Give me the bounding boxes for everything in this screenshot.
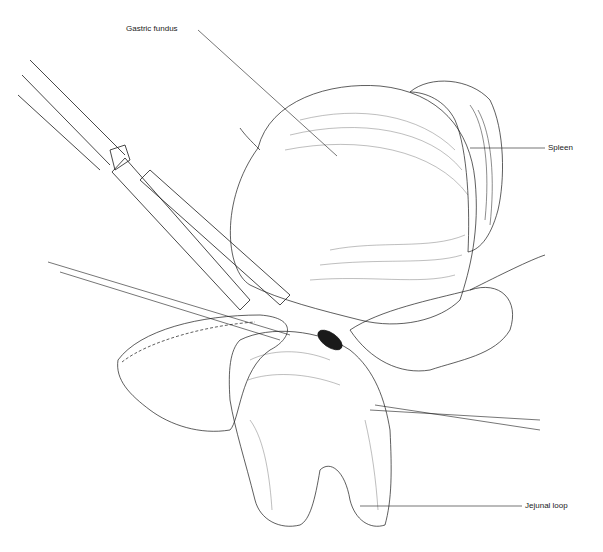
stapler-instrument — [18, 60, 290, 310]
bowel-segment-left — [118, 315, 288, 431]
suture-right — [370, 410, 540, 420]
gastric-fundus-outline — [230, 85, 476, 323]
suture-left-2 — [60, 272, 280, 340]
illustration-canvas: Gastric fundus Spleen Jejunal loop — [0, 0, 603, 552]
suture-left — [48, 262, 290, 335]
illustration-art — [0, 0, 603, 552]
suture-right-2 — [375, 405, 540, 430]
label-spleen: Spleen — [548, 143, 573, 152]
stapler-opening — [315, 326, 346, 354]
label-gastric-fundus: Gastric fundus — [126, 24, 178, 33]
spleen-outline — [410, 81, 503, 252]
omentum — [350, 287, 513, 371]
label-jejunal-loop: Jejunal loop — [525, 501, 568, 510]
